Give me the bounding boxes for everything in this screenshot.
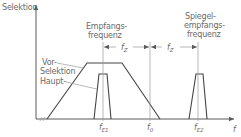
vor-label: Vor- bbox=[42, 58, 57, 67]
haupt-label: Haupt- bbox=[40, 77, 66, 86]
fz2-label: fZ bbox=[167, 43, 174, 53]
fE1-label: fE1 bbox=[99, 123, 108, 133]
hauptselektion-curve bbox=[94, 74, 111, 119]
empfangsfrequenz-label-1: Empfangs- bbox=[86, 22, 127, 31]
fz1-label: fZ bbox=[121, 43, 128, 53]
f0-label: f0 bbox=[147, 123, 154, 133]
spiegel-label-3: frequenz bbox=[187, 30, 221, 39]
selektion-label: Selektion bbox=[40, 67, 75, 76]
fE2-label: fE2 bbox=[194, 123, 204, 133]
spiegel-label-1: Spiegel- bbox=[185, 12, 216, 21]
selection-diagram: Selektion f fZ fZ Empfangs- frequenz Spi… bbox=[0, 0, 241, 137]
y-axis-label: Selektion bbox=[2, 3, 37, 12]
x-axis-label: f bbox=[233, 125, 237, 134]
empfangsfrequenz-label-2: frequenz bbox=[88, 31, 122, 40]
spiegel-label-2: empfangs- bbox=[184, 21, 225, 30]
